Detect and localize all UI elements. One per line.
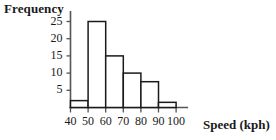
y-tick-label: 10 <box>39 65 63 80</box>
bar-series <box>71 22 177 108</box>
y-tick-label: 15 <box>39 48 63 63</box>
histogram-bar <box>88 22 106 108</box>
y-tick-label: 25 <box>39 14 63 29</box>
histogram-bar <box>141 82 159 108</box>
y-tick-label: 20 <box>39 31 63 46</box>
histogram-bar <box>71 101 89 108</box>
histogram-bar <box>123 73 141 107</box>
histogram-bar <box>106 56 124 108</box>
y-tick-label: 5 <box>39 82 63 97</box>
x-tick-label: 100 <box>165 114 187 129</box>
histogram-bar <box>159 102 177 107</box>
histogram-figure: Frequency Speed (kph) 510152025 40506070… <box>0 0 276 140</box>
